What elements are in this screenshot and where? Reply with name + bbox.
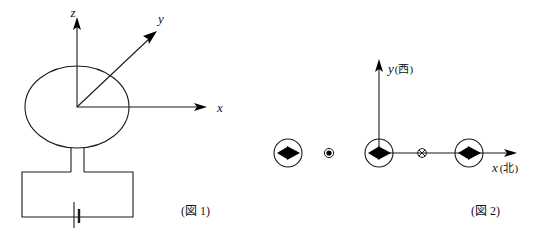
axis-x-label: x — [216, 100, 223, 115]
axis-z-label: z — [69, 5, 75, 20]
figure2-axis-y-label-group: y(西) — [386, 61, 413, 76]
axis-y-label: y — [156, 11, 164, 26]
figure2-axis-y-annotation: (西) — [395, 63, 414, 76]
needle-head-origin — [378, 146, 391, 160]
compass-needle-left — [274, 139, 302, 167]
figure-1-group: z y x (図 1) — [22, 5, 223, 228]
needle-tail-right — [458, 147, 468, 159]
current-out-of-page-dot — [324, 148, 333, 157]
needle-head-right — [468, 146, 481, 160]
figure-1-caption: (図 1) — [181, 204, 210, 218]
figure-2-group: y(西) x(北) (図 2) — [274, 59, 518, 218]
figure2-axis-x-label: x — [491, 160, 498, 175]
circuit-rectangle — [22, 172, 133, 217]
figure-canvas: z y x (図 1) — [0, 0, 534, 238]
needle-tail-origin — [368, 147, 378, 159]
needle-head-left — [287, 146, 300, 160]
compass-needle-right — [455, 139, 483, 167]
figure2-axis-x-annotation: (北) — [500, 162, 519, 175]
figure2-axis-x-label-group: x(北) — [491, 160, 518, 175]
axis-y-line — [77, 38, 150, 107]
figures-svg: z y x (図 1) — [0, 0, 534, 238]
figure-2-caption: (図 2) — [471, 204, 500, 218]
figure2-axis-y-label: y — [386, 61, 394, 76]
needle-tail-left — [277, 147, 287, 159]
